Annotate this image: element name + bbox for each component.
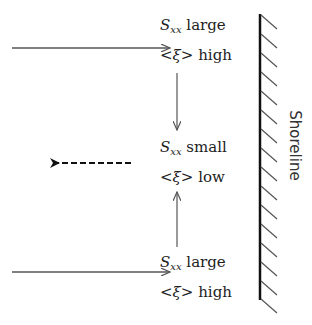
xi-state-middle: low: [198, 168, 225, 186]
shoreline-label: Shoreline: [287, 106, 302, 186]
xi-label-top: <ξ> high: [160, 48, 232, 63]
sxx-label-top: Sxx large: [160, 18, 226, 35]
sxx-subscript: xx: [170, 24, 181, 35]
sxx-subscript: xx: [170, 146, 181, 157]
sxx-state-middle: small: [186, 138, 226, 156]
shoreline-hatched-wall: [260, 14, 277, 313]
xi-label-bottom: <ξ> high: [160, 285, 232, 300]
xi-symbol: <ξ>: [160, 46, 193, 64]
diagram-canvas: [0, 0, 312, 325]
sxx-state-top: large: [186, 16, 225, 34]
sxx-state-bottom: large: [186, 253, 225, 271]
sxx-label-bottom: Sxx large: [160, 255, 226, 272]
sxx-subscript: xx: [170, 261, 181, 272]
xi-state-top: high: [198, 46, 232, 64]
xi-symbol: <ξ>: [160, 283, 193, 301]
wave-setup-diagram: Sxx large <ξ> high Sxx small <ξ> low Sxx…: [0, 0, 312, 325]
sxx-symbol: S: [160, 138, 170, 156]
sxx-label-middle: Sxx small: [160, 140, 227, 157]
xi-state-bottom: high: [198, 283, 232, 301]
xi-symbol: <ξ>: [160, 168, 193, 186]
xi-label-middle: <ξ> low: [160, 170, 225, 185]
sxx-symbol: S: [160, 253, 170, 271]
sxx-symbol: S: [160, 16, 170, 34]
